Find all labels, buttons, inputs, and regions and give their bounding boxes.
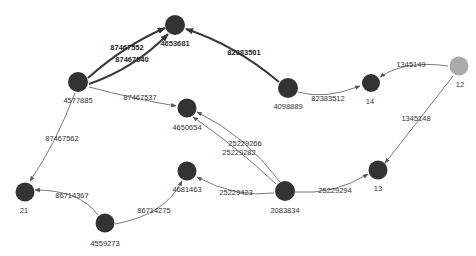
edge-label: 25229294	[318, 186, 351, 195]
node-label: 4650654	[172, 123, 201, 132]
node-label: 4098889	[273, 102, 302, 111]
node-4650654[interactable]: 4650654	[172, 99, 201, 133]
edge-label: 87467537	[123, 93, 156, 102]
edge-label: 86714367	[55, 191, 88, 200]
node-4559273[interactable]: 4559273	[90, 214, 119, 249]
edge-labels: 87467552 87467540 82383501 87467537 8746…	[45, 43, 430, 215]
edge-label: 25229282	[222, 148, 255, 157]
node-4098889[interactable]: 4098889	[273, 78, 302, 111]
node-label: 4577885	[63, 96, 92, 105]
edge-label: 25229266	[228, 139, 261, 148]
node-2083834[interactable]: 2083834	[270, 181, 299, 215]
edge-label: 87467540	[115, 55, 148, 64]
graph-canvas: 87467552 87467540 82383501 87467537 8746…	[0, 0, 476, 256]
node-14[interactable]: 14	[362, 74, 380, 106]
node-label: 13	[374, 184, 382, 193]
node-label: 21	[20, 206, 28, 215]
edge-label: 87467552	[110, 43, 143, 52]
node-label: 4559273	[90, 239, 119, 248]
edge-label: 82383512	[311, 94, 344, 103]
node-12[interactable]: 12	[450, 57, 469, 90]
node-label: 4681463	[172, 185, 201, 194]
node-label: 4653681	[160, 39, 189, 48]
edge-label: 87467562	[45, 134, 78, 143]
node-4653681[interactable]: 4653681	[160, 15, 189, 48]
node-label: 2083834	[270, 206, 299, 215]
edge-label: 25229423	[219, 188, 252, 197]
node-label: 14	[366, 97, 374, 106]
edge-label: 86714275	[137, 206, 170, 215]
node-21[interactable]: 21	[16, 183, 35, 216]
edge-87467552[interactable]	[88, 28, 165, 78]
node-4681463[interactable]: 4681463	[172, 162, 201, 195]
edge-label: 1345149	[396, 60, 425, 69]
node-13[interactable]: 13	[369, 161, 388, 194]
edge-label: 82383501	[227, 48, 260, 57]
edge-label: 1345148	[401, 114, 430, 123]
node-label: 12	[456, 80, 464, 89]
